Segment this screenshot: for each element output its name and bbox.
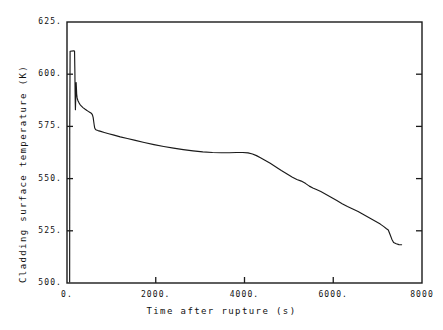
figure-container: 500.525.550.575.600.625. 0.2000.4000.600… <box>0 0 443 330</box>
x-tick-label: 6000. <box>298 291 368 299</box>
y-tick-label: 600. <box>26 70 62 78</box>
x-axis-title: Time after rupture (s) <box>0 306 443 316</box>
x-tick-marks <box>156 277 334 283</box>
y-tick-label: 575. <box>26 122 62 130</box>
x-tick-label: 0. <box>32 291 102 299</box>
y-tick-label: 550. <box>26 175 62 183</box>
plot-canvas <box>0 0 443 330</box>
x-tick-label: 2000. <box>121 291 191 299</box>
x-tick-label: 4000. <box>210 291 280 299</box>
y-tick-label: 525. <box>26 227 62 235</box>
x-tick-label: 8000 <box>387 291 443 299</box>
temperature-curve <box>70 51 402 282</box>
y-tick-label: 625. <box>26 18 62 26</box>
y-tick-label: 500. <box>26 279 62 287</box>
y-axis-title: Cladding surface temperature (K) <box>18 65 28 283</box>
y-axis-title-container: Cladding surface temperature (K) <box>4 0 26 290</box>
